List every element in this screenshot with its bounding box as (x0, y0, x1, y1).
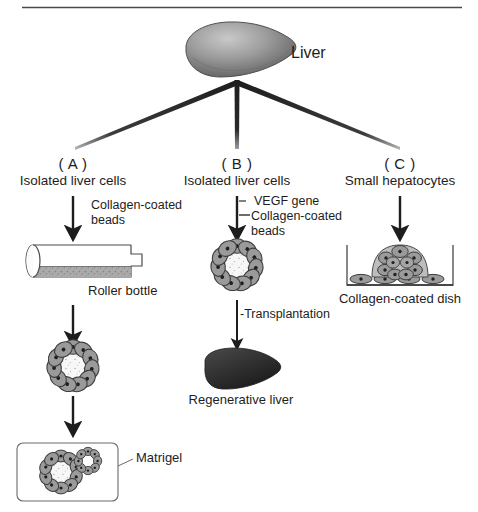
regenerative-liver-illustration (205, 348, 281, 389)
source-liver-illustration (186, 22, 296, 77)
diagram-canvas: Roller bottle (0, 0, 478, 512)
branch-connectors (75, 80, 400, 150)
section-a-additive-line1: Collagen-coated (91, 198, 182, 212)
matrigel-leader-line (118, 459, 133, 466)
collagen-coated-dish-illustration (347, 245, 453, 285)
section-b-additive-line3: beads (251, 224, 285, 238)
source-liver-label: Liver (291, 44, 326, 62)
column-c-group (347, 196, 453, 285)
section-c-title: Small hepatocytes (345, 173, 455, 189)
spheroid-bud (74, 447, 101, 474)
collagen-coated-dish-label: Collagen-coated dish (339, 292, 461, 307)
section-a-title: Isolated liver cells (20, 173, 127, 189)
section-b-letter: ( B ) (222, 155, 253, 172)
transplantation-label: -Transplantation (240, 307, 330, 321)
matrigel-label: Matrigel (136, 451, 182, 466)
section-b-additive-line2: Collagen-coated (251, 209, 342, 223)
roller-bottle-illustration (26, 245, 142, 277)
section-c-letter: ( C ) (384, 155, 416, 172)
regenerative-liver-label: Regenerative liver (189, 393, 294, 408)
spheroid-b (209, 238, 264, 293)
section-b-title: Isolated liver cells (184, 173, 291, 189)
section-b-additive-line1: VEGF gene (254, 194, 319, 208)
section-a-letter: ( A ) (58, 155, 87, 172)
hepatocyte-colony-mound (372, 245, 428, 280)
roller-bottle-label: Roller bottle (88, 283, 157, 298)
section-a-additive-line2: beads (91, 213, 125, 227)
spheroid-a (45, 339, 100, 394)
